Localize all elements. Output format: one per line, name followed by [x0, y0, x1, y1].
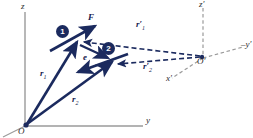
x-prime-axis-label: x′: [166, 74, 172, 83]
vector-r2-prime-label: r′2: [143, 62, 152, 73]
diagram-canvas: [0, 0, 253, 138]
primed-axis-group: [172, 8, 243, 78]
force-F-label-text: F: [88, 12, 94, 22]
vector-r1-prime-label-sub: 1: [142, 25, 145, 31]
vector-r2-label: r2: [72, 95, 79, 106]
particle-marker-1-label: 1: [60, 28, 64, 36]
vector-r2-prime-arrow: [118, 57, 200, 64]
vector-e-label: e: [83, 53, 87, 62]
force-F-label: F: [88, 13, 94, 22]
particle-marker-2-label: 2: [106, 45, 110, 53]
origin-O-prime-label: O′: [197, 57, 205, 66]
particle-marker-2: 2: [102, 42, 115, 55]
vector-r1-label-sub: 1: [44, 74, 47, 80]
y-prime-axis-label: –y′: [241, 40, 251, 49]
origin-O-label: O: [18, 127, 25, 136]
vector-r1-label: r1: [40, 69, 47, 80]
vector-r1-arrow: [27, 42, 77, 124]
vector-r2-label-sub: 2: [76, 100, 79, 106]
z-prime-axis-label: z′: [199, 0, 204, 9]
unprimed-axis-group: [3, 12, 143, 137]
y-axis-label: y: [146, 116, 150, 125]
vector-r1-prime-label: r′1: [136, 20, 145, 31]
vector-e-label-text: e: [83, 52, 87, 62]
physics-vector-diagram: 1 2 z y O z′ –y′ x′ O′ F r1 r2 r′1 r′2 e: [0, 0, 253, 138]
y-prime-axis-line: [203, 47, 243, 58]
particle-marker-1: 1: [56, 25, 69, 38]
z-axis-label: z: [21, 2, 25, 11]
vector-r2-prime-label-sub: 2: [149, 67, 152, 73]
